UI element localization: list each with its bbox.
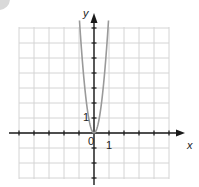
coordinate-plane xyxy=(0,0,199,187)
y-tick-label-1: 1 xyxy=(83,112,89,123)
x-axis-label: x xyxy=(187,140,193,151)
y-axis-label: y xyxy=(83,8,89,19)
x-tick-label-1: 1 xyxy=(106,140,112,151)
axes xyxy=(9,13,185,185)
origin-label: 0 xyxy=(88,136,94,147)
